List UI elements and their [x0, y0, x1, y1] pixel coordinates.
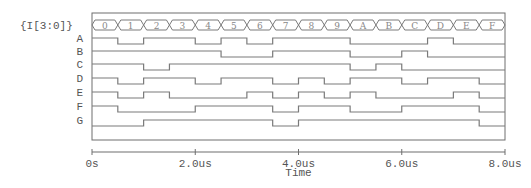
signal-trace-c	[92, 64, 505, 70]
signal-trace-d	[92, 78, 505, 84]
signal-label-f: F	[76, 101, 83, 113]
x-axis-label: Time	[285, 167, 311, 179]
signal-label-a: A	[76, 33, 83, 45]
x-tick-label: 2.0us	[179, 158, 212, 170]
x-tick-label: 0s	[85, 158, 98, 170]
x-tick-label: 6.0us	[385, 158, 418, 170]
signal-label-d: D	[76, 73, 83, 85]
signal-trace-g	[92, 120, 505, 126]
waveform-diagram: {I[3:0]}0123456789ABCDEFABCDEFG0s2.0us4.…	[0, 0, 531, 188]
bus-label: {I[3:0]}	[20, 20, 73, 32]
signal-label-g: G	[76, 115, 83, 127]
signal-label-c: C	[76, 59, 83, 71]
signal-label-b: B	[76, 46, 83, 58]
signal-trace-f	[92, 106, 505, 112]
signal-trace-a	[92, 38, 505, 44]
signal-trace-b	[92, 51, 505, 57]
signal-trace-e	[92, 92, 505, 98]
signal-label-e: E	[76, 87, 83, 99]
x-tick-label: 8.0us	[488, 158, 521, 170]
